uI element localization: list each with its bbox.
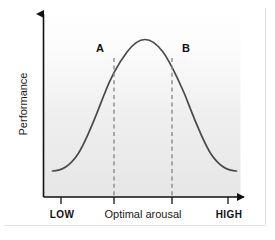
x-label-optimal-arousal: Optimal arousal [104,208,181,220]
point-label-b: B [182,42,190,54]
page-frame-bottom-rule [4,225,266,226]
x-label-high: HIGH [216,209,243,220]
performance-arousal-chart: A B Performance LOW Optimal arousal HIGH [0,0,275,240]
yerkes-dodson-figure: A B Performance LOW Optimal arousal HIGH [0,0,275,240]
x-label-low: LOW [50,209,75,220]
y-axis-title: Performance [17,73,29,136]
page-frame-right-rule [265,8,266,226]
plot-background [44,11,241,197]
point-label-a: A [96,42,104,54]
